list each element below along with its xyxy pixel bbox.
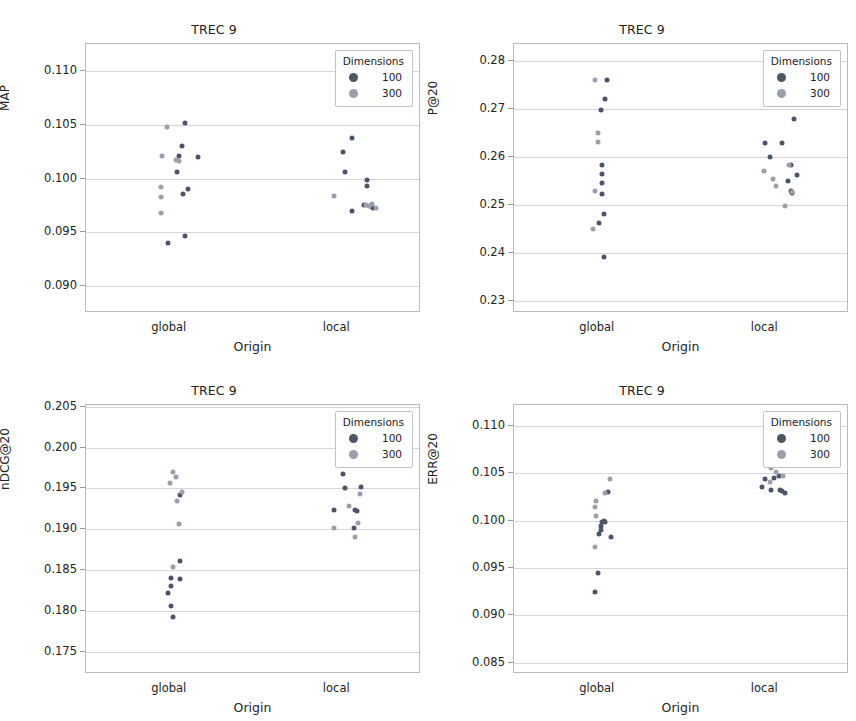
y-tick-mark bbox=[508, 614, 513, 615]
legend[interactable]: Dimensions100300 bbox=[335, 50, 413, 107]
data-point bbox=[591, 226, 596, 231]
data-point bbox=[374, 205, 379, 210]
legend-entry-300[interactable]: 300 bbox=[343, 446, 404, 462]
gridline bbox=[86, 611, 419, 612]
data-point bbox=[600, 191, 605, 196]
gridline bbox=[514, 615, 847, 616]
data-point bbox=[359, 484, 364, 489]
legend-label: 100 bbox=[382, 432, 404, 444]
data-point bbox=[332, 526, 337, 531]
data-point bbox=[794, 173, 799, 178]
x-axis-label: Origin bbox=[85, 339, 420, 354]
panel-p20: TREC 9 Dimensions100300 P@20 Origin 0.23… bbox=[428, 0, 856, 360]
y-tick-label: 0.085 bbox=[431, 655, 505, 669]
data-point bbox=[597, 531, 602, 536]
panel-map: TREC 9 Dimensions100300 MAP Origin 0.090… bbox=[0, 0, 428, 360]
data-point bbox=[769, 488, 774, 493]
chart-title: TREC 9 bbox=[0, 383, 428, 398]
data-point bbox=[592, 545, 597, 550]
legend[interactable]: Dimensions100300 bbox=[763, 50, 841, 107]
data-point bbox=[178, 559, 183, 564]
data-point bbox=[173, 474, 178, 479]
panel-err20: TREC 9 Dimensions100300 ERR@20 Origin 0.… bbox=[428, 361, 856, 721]
data-point bbox=[785, 179, 790, 184]
legend-label: 300 bbox=[810, 448, 832, 460]
data-point bbox=[600, 163, 605, 168]
y-tick-mark bbox=[80, 406, 85, 407]
data-point bbox=[158, 210, 163, 215]
legend-entry-300[interactable]: 300 bbox=[343, 85, 404, 101]
y-tick-label: 0.205 bbox=[3, 399, 77, 413]
gridline bbox=[514, 205, 847, 206]
data-point bbox=[595, 130, 600, 135]
data-point bbox=[170, 564, 175, 569]
legend[interactable]: Dimensions100300 bbox=[335, 411, 413, 468]
figure-grid: TREC 9 Dimensions100300 MAP Origin 0.090… bbox=[0, 0, 856, 721]
data-point bbox=[787, 163, 792, 168]
data-point bbox=[592, 505, 597, 510]
x-tick-label-local: local bbox=[751, 320, 778, 334]
y-tick-label: 0.195 bbox=[3, 480, 77, 494]
data-point bbox=[166, 591, 171, 596]
y-tick-label: 0.25 bbox=[431, 197, 505, 211]
gridline bbox=[86, 529, 419, 530]
data-point bbox=[332, 507, 337, 512]
data-point bbox=[595, 140, 600, 145]
y-tick-mark bbox=[508, 156, 513, 157]
data-point bbox=[790, 190, 795, 195]
x-tick-label-local: local bbox=[751, 681, 778, 695]
gridline bbox=[86, 407, 419, 408]
gridline bbox=[514, 157, 847, 158]
y-tick-label: 0.090 bbox=[3, 278, 77, 292]
y-tick-mark bbox=[508, 300, 513, 301]
y-tick-mark bbox=[80, 285, 85, 286]
chart-title: TREC 9 bbox=[0, 22, 428, 37]
y-tick-label: 0.105 bbox=[3, 117, 77, 131]
legend-title: Dimensions bbox=[343, 416, 404, 428]
y-tick-label: 0.110 bbox=[431, 418, 505, 432]
y-tick-mark bbox=[80, 124, 85, 125]
data-point bbox=[341, 149, 346, 154]
plot-area-p20: Dimensions100300 bbox=[513, 43, 848, 312]
x-tick-label-global: global bbox=[151, 681, 186, 695]
legend-entry-100[interactable]: 100 bbox=[343, 430, 404, 446]
legend-entry-100[interactable]: 100 bbox=[343, 69, 404, 85]
y-tick-label: 0.090 bbox=[431, 607, 505, 621]
gridline bbox=[86, 652, 419, 653]
data-point bbox=[332, 193, 337, 198]
y-axis-label: MAP bbox=[0, 18, 12, 178]
data-point bbox=[365, 177, 370, 182]
data-point bbox=[595, 570, 600, 575]
legend-entry-100[interactable]: 100 bbox=[771, 69, 832, 85]
data-point bbox=[365, 184, 370, 189]
data-point bbox=[601, 211, 606, 216]
y-tick-mark bbox=[80, 651, 85, 652]
y-tick-mark bbox=[508, 425, 513, 426]
y-tick-label: 0.095 bbox=[3, 224, 77, 238]
plot-area-err20: Dimensions100300 bbox=[513, 404, 848, 673]
gridline bbox=[514, 473, 847, 474]
data-point bbox=[341, 471, 346, 476]
data-point bbox=[592, 589, 597, 594]
data-point bbox=[350, 135, 355, 140]
y-tick-mark bbox=[508, 520, 513, 521]
y-tick-mark bbox=[80, 487, 85, 488]
data-point bbox=[763, 141, 768, 146]
legend-label: 300 bbox=[382, 87, 404, 99]
legend-entry-300[interactable]: 300 bbox=[771, 446, 832, 462]
y-tick-label: 0.23 bbox=[431, 293, 505, 307]
legend-entry-300[interactable]: 300 bbox=[771, 85, 832, 101]
y-tick-mark bbox=[80, 447, 85, 448]
data-point bbox=[179, 490, 184, 495]
legend-marker-icon bbox=[777, 89, 786, 98]
data-point bbox=[603, 491, 608, 496]
x-axis-label: Origin bbox=[85, 700, 420, 715]
data-point bbox=[169, 583, 174, 588]
data-point bbox=[185, 187, 190, 192]
y-tick-mark bbox=[80, 178, 85, 179]
x-tick-label-local: local bbox=[323, 320, 350, 334]
legend[interactable]: Dimensions100300 bbox=[763, 411, 841, 468]
data-point bbox=[594, 513, 599, 518]
legend-entry-100[interactable]: 100 bbox=[771, 430, 832, 446]
gridline bbox=[86, 232, 419, 233]
